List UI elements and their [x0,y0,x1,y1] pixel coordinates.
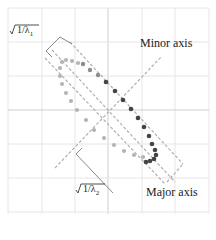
minor-axis-label: Minor axis [140,36,192,51]
axis-dashed-lines [45,42,183,184]
lambda2-subscript: 2 [96,189,100,197]
major-axis-label: Major axis [146,185,198,200]
path-dots [104,80,159,165]
lambda1-label: 1/λ1 [17,24,33,38]
lambda1-subscript: 1 [30,30,34,38]
brackets [46,37,113,193]
bracket-lambda1 [46,37,60,57]
lambda2-label: 1/λ2 [83,183,99,197]
major-axis-line [52,50,175,182]
lambda1-text: 1/λ [17,24,30,35]
rect-edge-lower [45,58,165,184]
rect-edge-upper [70,42,183,164]
lambda2-text: 1/λ [83,183,96,194]
